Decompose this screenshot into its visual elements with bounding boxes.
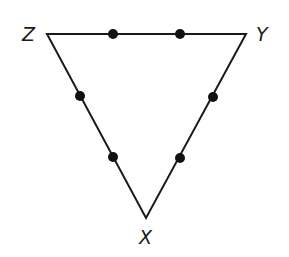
point-yx-2 [175,153,185,163]
vertex-label-y: Y [256,23,269,45]
point-zx-1 [75,91,85,101]
point-yx-1 [208,92,218,102]
point-zx-2 [108,152,118,162]
triangle-diagram: Z Y X [0,0,289,257]
point-zy-1 [108,29,118,39]
vertex-label-z: Z [21,23,36,45]
point-zy-2 [175,29,185,39]
vertex-label-x: X [138,226,153,248]
triangle-xyz [47,34,246,218]
